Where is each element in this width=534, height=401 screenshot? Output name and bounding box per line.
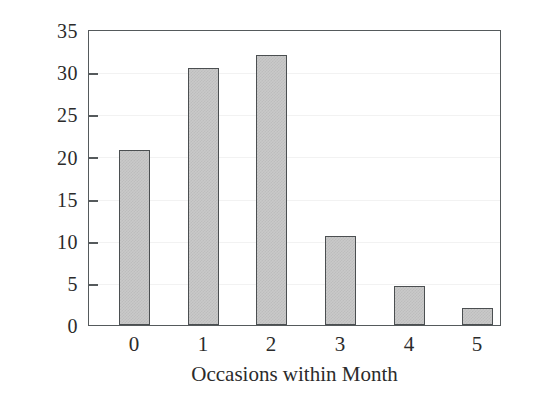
y-axis-tick-label: 25 (46, 105, 78, 125)
x-axis-tick-label: 5 (457, 333, 497, 355)
y-axis-title: Percent (21, 0, 47, 56)
gridline (89, 157, 500, 158)
plot-inner (89, 31, 500, 325)
y-axis-tick-label: 0 (46, 316, 78, 336)
bar-0 (119, 150, 150, 325)
bar-2 (256, 55, 287, 325)
bar-1 (188, 68, 219, 325)
gridline (89, 242, 500, 243)
y-axis-tick-label: 30 (46, 63, 78, 83)
bar-5 (462, 308, 493, 325)
y-axis-tick (89, 200, 98, 202)
x-axis-title: Occasions within Month (88, 362, 501, 386)
gridline (89, 115, 500, 116)
y-axis-tick (89, 115, 98, 117)
y-axis-tick-label: 5 (46, 274, 78, 294)
x-axis-tick-label: 4 (389, 333, 429, 355)
y-axis-tick-label: 15 (46, 190, 78, 210)
x-axis-tick-label: 3 (320, 333, 360, 355)
y-axis-tick-label: 20 (46, 148, 78, 168)
y-axis-tick (89, 73, 98, 75)
x-axis-tick-label: 1 (183, 333, 223, 355)
y-axis-tick (89, 242, 98, 244)
gridline (89, 284, 500, 285)
bar-3 (325, 236, 356, 326)
y-axis-tick (89, 157, 98, 159)
gridline (89, 200, 500, 201)
y-axis-tick-label: 10 (46, 232, 78, 252)
x-axis-tick-label: 2 (251, 333, 291, 355)
bar-chart: Percent 0 5 10 15 20 25 30 35 (0, 0, 534, 401)
bar-4 (394, 286, 425, 325)
gridline (89, 73, 500, 74)
plot-area (88, 30, 501, 326)
y-axis-tick-label: 35 (46, 21, 78, 41)
y-axis-tick (89, 284, 98, 286)
x-axis-tick-label: 0 (114, 333, 154, 355)
